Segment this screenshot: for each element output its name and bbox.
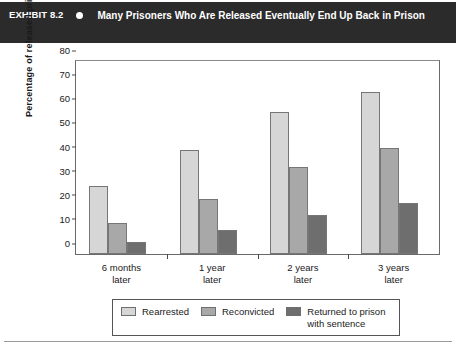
bar-4-1: [361, 92, 380, 254]
y-axis-tick-50: 50: [59, 117, 76, 128]
bar-3-1: [270, 112, 289, 254]
bar-2-3: [218, 230, 237, 254]
x-axis-label-1: 6 months later: [102, 262, 141, 285]
bar-4-2: [380, 148, 399, 254]
y-axis-tick-0: 0: [65, 238, 76, 249]
legend-label-2: Reconvicted: [222, 306, 274, 318]
bar-4-3: [399, 203, 418, 254]
x-axis-label-4: 3 years later: [378, 262, 409, 285]
bottom-divider: [4, 341, 452, 342]
exhibit-header: EXHIBIT 8.2 Many Prisoners Who Are Relea…: [0, 2, 456, 43]
x-axis-tick-3: [348, 254, 349, 259]
x-axis-label-3: 2 years later: [287, 262, 318, 285]
x-axis-tick-1: [167, 254, 168, 259]
y-axis-tick-10: 10: [59, 213, 76, 224]
x-axis-label-2: 1 year later: [199, 262, 225, 285]
bar-1-3: [127, 242, 146, 254]
exhibit-number: EXHIBIT 8.2: [9, 9, 63, 21]
legend-swatch-1: [121, 307, 136, 316]
y-axis-tick-60: 60: [59, 93, 76, 104]
bar-chart: Percentage of released prisoners 0102030…: [0, 43, 456, 352]
chart-legend: RearrestedReconvictedReturned to prison …: [112, 299, 400, 336]
plot-area: 010203040506070806 months later1 year la…: [75, 60, 440, 255]
legend-item-1: Rearrested: [121, 306, 189, 318]
bar-3-2: [289, 167, 308, 254]
bar-2-2: [199, 199, 218, 254]
y-axis-tick-80: 80: [59, 45, 76, 56]
y-axis-title: Percentage of released prisoners: [24, 0, 34, 117]
legend-swatch-3: [286, 307, 301, 316]
exhibit-title: Many Prisoners Who Are Released Eventual…: [97, 9, 425, 22]
legend-item-2: Reconvicted: [201, 306, 274, 318]
bar-2-1: [180, 150, 199, 254]
bullet-dot-icon: [76, 12, 83, 19]
bar-1-2: [108, 223, 127, 254]
y-axis-tick-20: 20: [59, 189, 76, 200]
y-axis-tick-30: 30: [59, 165, 76, 176]
legend-item-3: Returned to prison with sentence: [286, 306, 385, 329]
bar-3-3: [308, 215, 327, 254]
legend-label-3: Returned to prison with sentence: [307, 306, 385, 329]
x-axis-tick-2: [258, 254, 259, 259]
y-axis-tick-70: 70: [59, 69, 76, 80]
legend-label-1: Rearrested: [142, 306, 189, 318]
y-axis-tick-40: 40: [59, 141, 76, 152]
bar-1-1: [89, 186, 108, 254]
legend-swatch-2: [201, 307, 216, 316]
